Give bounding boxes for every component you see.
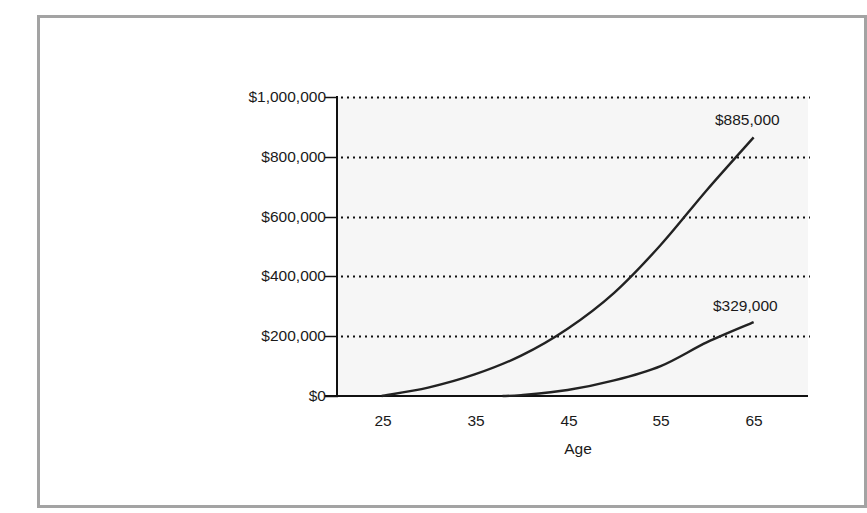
series-lines (382, 137, 754, 396)
y-tick-label: $800,000 (261, 149, 326, 165)
y-tick-label: $200,000 (261, 328, 326, 344)
y-tick-label: $0 (309, 388, 326, 404)
x-tick-label: 65 (734, 412, 774, 430)
annotation-329000: $329,000 (713, 297, 778, 315)
series-line-late (503, 322, 754, 396)
y-tick-label: $1,000,000 (248, 89, 326, 105)
x-tick-label: 25 (363, 412, 403, 430)
x-tick-label: 35 (456, 412, 496, 430)
x-axis-title: Age (548, 440, 608, 458)
x-tick-label: 45 (549, 412, 589, 430)
y-tick-label: $600,000 (261, 209, 326, 225)
y-tick-label: $400,000 (261, 268, 326, 284)
series-line-early (382, 137, 754, 396)
axes (325, 96, 808, 397)
x-tick-label: 55 (641, 412, 681, 430)
annotation-885000: $885,000 (715, 111, 780, 129)
